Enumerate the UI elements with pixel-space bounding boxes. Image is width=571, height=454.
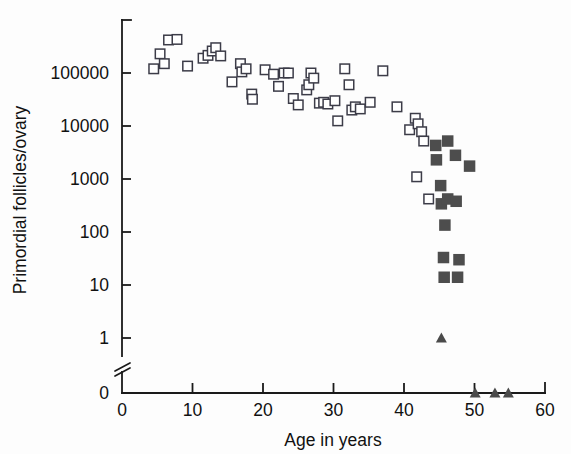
x-axis-title: Age in years xyxy=(284,430,382,450)
x-tick-label-40: 40 xyxy=(394,400,414,420)
y-tick-label-10000: 10000 xyxy=(60,116,109,136)
axis-group xyxy=(115,20,545,393)
data-point-open-square xyxy=(227,77,237,87)
data-point-filled-square xyxy=(450,196,462,208)
data-point-open-square xyxy=(419,136,429,146)
data-point-open-square xyxy=(412,172,422,182)
data-points-group xyxy=(149,35,514,398)
data-point-open-square xyxy=(344,80,354,90)
x-tick-label-50: 50 xyxy=(465,400,485,420)
data-point-filled-square xyxy=(442,135,454,147)
data-point-filled-square xyxy=(435,180,447,192)
y-tick-label-100000: 100000 xyxy=(51,63,110,83)
y-tick-label-10: 10 xyxy=(90,275,110,295)
data-point-open-square xyxy=(330,96,340,106)
data-point-open-square xyxy=(424,194,434,204)
x-tick-label-0: 0 xyxy=(117,400,127,420)
data-point-filled-square xyxy=(439,219,451,231)
data-point-open-square xyxy=(248,94,257,104)
data-point-filled-square xyxy=(438,252,450,264)
data-point-filled-square xyxy=(450,150,462,162)
plot-canvas: 10000010000100010010100102030405060 Age … xyxy=(0,0,571,454)
data-point-open-square xyxy=(183,61,193,71)
data-point-filled-square xyxy=(438,272,450,284)
data-point-open-square xyxy=(284,68,294,78)
x-tick-label-10: 10 xyxy=(183,400,203,420)
y-tick-label-100: 100 xyxy=(80,222,109,242)
data-point-open-square xyxy=(356,104,366,114)
data-point-filled-square xyxy=(452,272,464,284)
data-point-filled-square xyxy=(430,140,442,152)
data-point-open-square xyxy=(172,35,182,45)
data-point-triangle xyxy=(436,333,447,343)
y-axis-title: Primordial follicles/ovary xyxy=(10,105,30,294)
data-point-filled-square xyxy=(464,160,476,172)
data-point-open-square xyxy=(309,73,319,83)
data-point-open-square xyxy=(269,69,279,79)
data-point-open-square xyxy=(417,127,427,137)
data-point-open-square xyxy=(392,102,402,112)
data-point-filled-square xyxy=(453,254,465,266)
x-tick-label-30: 30 xyxy=(324,400,344,420)
data-point-open-square xyxy=(160,59,170,68)
scatter-plot-figure: 10000010000100010010100102030405060 Age … xyxy=(0,0,571,454)
x-tick-label-20: 20 xyxy=(253,400,273,420)
data-point-open-square xyxy=(241,64,251,74)
data-point-open-square xyxy=(149,64,159,74)
tick-label-group: 10000010000100010010100102030405060 xyxy=(51,63,555,420)
data-point-filled-square xyxy=(431,154,443,166)
y-tick-label-1000: 1000 xyxy=(70,169,109,189)
data-point-open-square xyxy=(294,100,304,110)
data-point-open-square xyxy=(378,66,388,76)
y-tick-label-1: 1 xyxy=(99,328,109,348)
data-point-open-square xyxy=(274,82,284,92)
data-point-open-square xyxy=(216,51,226,61)
y-tick-label-0: 0 xyxy=(99,383,109,403)
data-point-open-square xyxy=(340,64,350,74)
data-point-open-square xyxy=(155,49,165,59)
data-point-open-square xyxy=(365,98,375,108)
x-tick-label-60: 60 xyxy=(535,400,555,420)
data-point-open-square xyxy=(333,116,343,126)
